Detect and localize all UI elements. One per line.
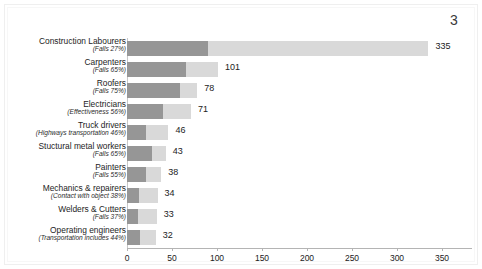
bar-row: Carpenters(Falls 65%)101 [0, 59, 482, 80]
x-tick-label: 200 [300, 253, 314, 263]
category-name: Painters [2, 163, 126, 171]
bar-track [127, 125, 168, 140]
category-label: Roofers(Falls 75%) [2, 79, 126, 95]
category-name: Roofers [2, 79, 126, 87]
bar-value-label: 71 [198, 104, 208, 114]
category-sublabel: (Falls 65%) [2, 67, 126, 74]
bar-row: Painters(Falls 55%)38 [0, 164, 482, 185]
category-name: Truck drivers [2, 121, 126, 129]
bar-segment-primary [127, 230, 140, 245]
category-name: Electricians [2, 100, 126, 108]
category-label: Truck drivers(Highways transportation 46… [2, 121, 126, 137]
bar-segment-primary [127, 209, 138, 224]
bar-row: Construction Labourers(Falls 27%)335 [0, 38, 482, 59]
x-tick-mark [262, 248, 263, 251]
bar-track [127, 230, 156, 245]
bar-value-label: 101 [225, 62, 240, 72]
bar-segment-primary [127, 104, 163, 119]
category-sublabel: (Contact with object 38%) [2, 193, 126, 200]
stacked-bar [127, 146, 166, 161]
bar-value-label: 38 [168, 167, 178, 177]
bar-segment-primary [127, 83, 180, 98]
stacked-bar [127, 41, 429, 56]
bar-value-label: 34 [165, 188, 175, 198]
stacked-bar [127, 209, 157, 224]
category-sublabel: (Highways transportation 46%) [2, 130, 126, 137]
bar-segment-secondary [186, 62, 218, 77]
stacked-bar [127, 167, 161, 182]
category-sublabel: (Falls 27%) [2, 46, 126, 53]
bar-segment-primary [127, 125, 146, 140]
category-name: Operating engineers [2, 226, 126, 234]
category-label: Carpenters(Falls 65%) [2, 58, 126, 74]
bar-segment-secondary [146, 167, 161, 182]
bar-segment-primary [127, 188, 139, 203]
bar-segment-secondary [163, 104, 191, 119]
bar-segment-primary [127, 146, 152, 161]
category-label: Mechanics & repairers(Contact with objec… [2, 184, 126, 200]
bar-value-label: 33 [164, 209, 174, 219]
category-name: Carpenters [2, 58, 126, 66]
bar-chart: Construction Labourers(Falls 27%)335Carp… [0, 0, 482, 269]
category-sublabel: (Falls 55%) [2, 172, 126, 179]
bar-track [127, 62, 218, 77]
category-label: Electricians(Effectiveness 56%) [2, 100, 126, 116]
bar-track [127, 104, 191, 119]
stacked-bar [127, 188, 158, 203]
bar-segment-secondary [138, 209, 157, 224]
bar-segment-secondary [180, 83, 198, 98]
stacked-bar [127, 125, 168, 140]
bar-track [127, 146, 166, 161]
x-tick-label: 50 [167, 253, 176, 263]
category-label: Welders & Cutters(Falls 37%) [2, 205, 126, 221]
bar-rows: Construction Labourers(Falls 27%)335Carp… [0, 38, 482, 248]
category-name: Construction Labourers [2, 37, 126, 45]
x-tick-mark [442, 248, 443, 251]
bar-segment-secondary [208, 41, 428, 56]
bar-track [127, 83, 197, 98]
bar-value-label: 43 [173, 146, 183, 156]
bar-value-label: 32 [163, 230, 173, 240]
bar-segment-primary [127, 167, 146, 182]
category-name: Mechanics & repairers [2, 184, 126, 192]
x-tick-mark [127, 248, 128, 251]
x-tick-mark [172, 248, 173, 251]
bar-track [127, 188, 158, 203]
x-tick-label: 300 [390, 253, 404, 263]
category-label: Construction Labourers(Falls 27%) [2, 37, 126, 53]
bar-value-label: 335 [436, 41, 451, 51]
category-name: Welders & Cutters [2, 205, 126, 213]
category-name: Stuctural metal workers [2, 142, 126, 150]
bar-row: Welders & Cutters(Falls 37%)33 [0, 206, 482, 227]
bar-track [127, 209, 157, 224]
slide-page: 3 Construction Labourers(Falls 27%)335Ca… [0, 0, 482, 269]
x-tick-label: 0 [125, 253, 130, 263]
x-tick-mark [217, 248, 218, 251]
bar-row: Roofers(Falls 75%)78 [0, 80, 482, 101]
bar-row: Electricians(Effectiveness 56%)71 [0, 101, 482, 122]
bar-segment-secondary [139, 188, 158, 203]
x-tick-mark [397, 248, 398, 251]
category-sublabel: (Falls 75%) [2, 88, 126, 95]
x-tick-label: 100 [210, 253, 224, 263]
x-tick-mark [307, 248, 308, 251]
bar-row: Mechanics & repairers(Contact with objec… [0, 185, 482, 206]
x-tick-mark [352, 248, 353, 251]
category-label: Operating engineers(Transportation inclu… [2, 226, 126, 242]
bar-segment-secondary [152, 146, 166, 161]
stacked-bar [127, 83, 197, 98]
bar-segment-secondary [140, 230, 156, 245]
bar-row: Truck drivers(Highways transportation 46… [0, 122, 482, 143]
x-tick-label: 150 [255, 253, 269, 263]
bar-value-label: 46 [175, 125, 185, 135]
category-sublabel: (Effectiveness 56%) [2, 109, 126, 116]
bar-segment-primary [127, 41, 208, 56]
bar-segment-primary [127, 62, 186, 77]
category-sublabel: (Falls 37%) [2, 214, 126, 221]
bar-segment-secondary [146, 125, 168, 140]
bar-value-label: 78 [204, 83, 214, 93]
category-label: Painters(Falls 55%) [2, 163, 126, 179]
x-axis-ticks: 050100150200250300350 [0, 248, 482, 269]
stacked-bar [127, 230, 156, 245]
bar-row: Stuctural metal workers(Falls 65%)43 [0, 143, 482, 164]
